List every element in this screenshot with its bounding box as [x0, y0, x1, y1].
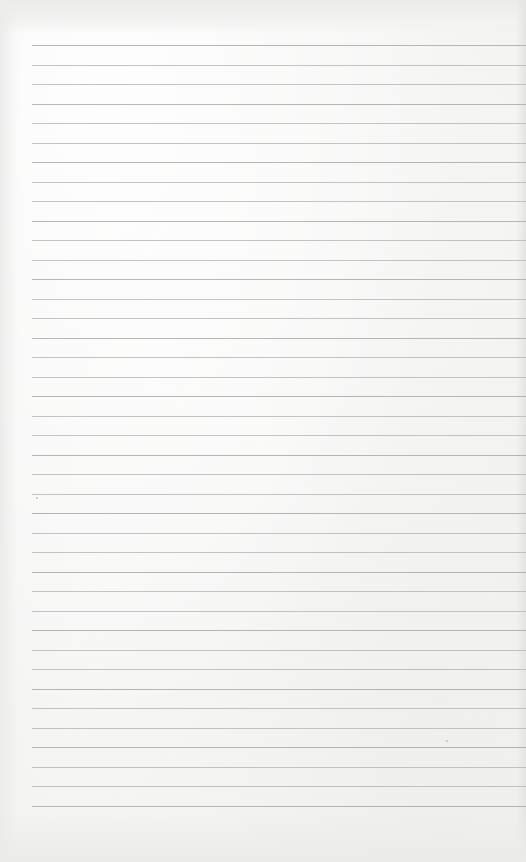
ruled-line: [32, 533, 526, 534]
ruled-line: [32, 435, 526, 436]
ruled-line: [32, 123, 526, 124]
ruled-line: [32, 162, 526, 163]
ruled-line: [32, 377, 526, 378]
ruled-line: [32, 630, 526, 631]
ruled-line: [32, 279, 526, 280]
ruled-line: [32, 611, 526, 612]
ruled-line: [32, 357, 526, 358]
ruled-line: [32, 747, 526, 748]
ruled-line: [32, 513, 526, 514]
paper-left-edge: [0, 0, 18, 862]
paper-bottom-edge: [0, 812, 526, 862]
ruled-line: [32, 338, 526, 339]
ruled-line: [32, 650, 526, 651]
ruled-line: [32, 474, 526, 475]
ruled-line: [32, 591, 526, 592]
paper-right-edge: [516, 0, 526, 862]
ruled-line: [32, 182, 526, 183]
ruled-line: [32, 299, 526, 300]
ruled-line: [32, 552, 526, 553]
ruled-line: [32, 767, 526, 768]
ruled-line: [32, 806, 526, 807]
ruled-line: [32, 104, 526, 105]
ruled-line: [32, 240, 526, 241]
ruled-line: [32, 494, 526, 495]
ruled-line: [32, 84, 526, 85]
ruled-line: [32, 45, 526, 46]
paper-speck: [36, 497, 38, 499]
ruled-line: [32, 728, 526, 729]
ruled-line: [32, 260, 526, 261]
ruled-line: [32, 669, 526, 670]
ruled-line: [32, 143, 526, 144]
ruled-line: [32, 689, 526, 690]
ruled-line: [32, 786, 526, 787]
ruled-line: [32, 396, 526, 397]
paper-speck: [446, 740, 448, 742]
ruled-line: [32, 416, 526, 417]
ruled-line: [32, 708, 526, 709]
lined-paper-sheet: [0, 0, 526, 862]
ruled-line: [32, 318, 526, 319]
ruled-line: [32, 201, 526, 202]
ruled-line: [32, 572, 526, 573]
ruled-line: [32, 65, 526, 66]
ruled-line: [32, 455, 526, 456]
paper-top-edge: [0, 0, 526, 34]
ruled-line: [32, 221, 526, 222]
